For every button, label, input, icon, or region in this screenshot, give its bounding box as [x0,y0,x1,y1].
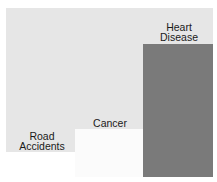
road-accidents-label: Road Accidents [14,131,70,151]
heart-disease-label: Heart Disease [153,22,205,42]
cancer-label: Cancer [88,118,132,128]
road-label-line2: Accidents [14,141,70,151]
heart-disease-area [143,44,213,177]
heart-label-line2: Disease [153,32,205,42]
cancer-area [75,129,143,177]
cancer-label-line1: Cancer [88,118,132,128]
